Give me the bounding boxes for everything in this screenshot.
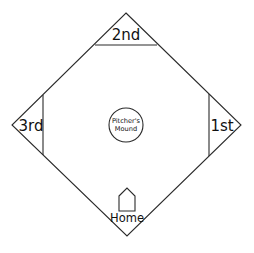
second-base-label: 2nd [112, 26, 141, 44]
home-plate-icon [119, 188, 135, 211]
home-label: Home [110, 211, 144, 225]
baseball-diamond-diagram: 2nd 3rd 1st Pitcher's Mound Home [0, 0, 254, 253]
pitchers-mound-label-line1: Pitcher's [112, 117, 141, 125]
pitchers-mound-label-line2: Mound [115, 125, 137, 133]
first-base-label: 1st [210, 117, 233, 135]
third-base-label: 3rd [19, 117, 44, 135]
